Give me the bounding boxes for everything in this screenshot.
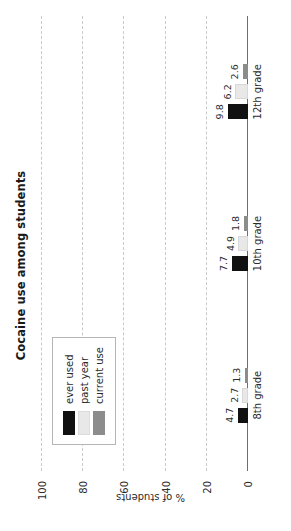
y-axis-tick: 20	[201, 481, 212, 494]
legend-item-label: past year	[79, 357, 90, 404]
y-axis-tick-labels: 020406080100	[42, 473, 248, 531]
bar-value-label: 2.6	[229, 64, 240, 79]
legend-item[interactable]: past year	[78, 347, 90, 435]
bar-group: 9.86.22.6	[42, 64, 248, 119]
bar[interactable]: 4.7	[238, 408, 248, 423]
bar[interactable]: 9.8	[228, 104, 248, 119]
chart-title: Cocaine use among students	[14, 0, 28, 531]
x-axis-category-labels: 8th grade10th grade12th grade	[250, 16, 270, 471]
bar-value-label: 1.8	[230, 216, 241, 231]
bar[interactable]: 1.3	[245, 368, 248, 383]
bar-value-label: 4.7	[224, 408, 235, 423]
legend-item[interactable]: current use	[93, 347, 105, 435]
x-axis-category-label: 8th grade	[252, 371, 263, 420]
rotated-figure-canvas: Cocaine use among students % of students…	[0, 0, 291, 531]
x-axis-category-label: 12th grade	[252, 64, 263, 119]
legend-item-label: ever used	[64, 354, 75, 404]
bar[interactable]: 4.9	[238, 236, 248, 251]
legend-item-label: current use	[94, 347, 105, 404]
bar-group: 7.74.91.8	[42, 216, 248, 271]
y-axis-tick: 60	[119, 481, 130, 494]
bar-value-label: 2.7	[229, 388, 240, 403]
y-axis-tick: 80	[78, 481, 89, 494]
legend-swatch-current	[93, 411, 105, 435]
x-axis-category-label: 10th grade	[252, 216, 263, 271]
bar[interactable]: 2.6	[243, 64, 248, 79]
legend-swatch-ever	[63, 411, 75, 435]
y-axis-tick: 40	[160, 481, 171, 494]
y-axis-tick: 100	[37, 481, 48, 500]
bar-value-label: 7.7	[218, 256, 229, 271]
chart-figure: Cocaine use among students % of students…	[0, 0, 291, 531]
bar-value-label: 1.3	[231, 368, 242, 383]
bar-value-label: 9.8	[214, 104, 225, 119]
bar[interactable]: 1.8	[244, 216, 248, 231]
legend-swatch-past	[78, 411, 90, 435]
bar-value-label: 4.9	[225, 236, 236, 251]
bar-value-label: 6.2	[222, 84, 233, 99]
legend-item[interactable]: ever used	[63, 347, 75, 435]
bar[interactable]: 6.2	[235, 84, 248, 99]
bar[interactable]: 2.7	[242, 388, 248, 403]
bar[interactable]: 7.7	[232, 256, 248, 271]
y-axis-tick: 0	[243, 481, 254, 487]
chart-legend: ever usedpast yearcurrent use	[52, 337, 116, 445]
